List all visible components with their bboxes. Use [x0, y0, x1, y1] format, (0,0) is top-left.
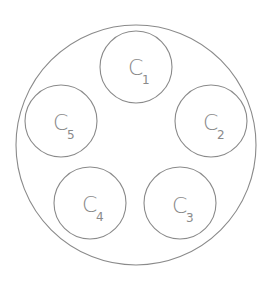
circle-c2: C 2 — [175, 85, 247, 157]
circle-c3-subscript: 3 — [186, 211, 194, 225]
circle-c3: C 3 — [144, 167, 216, 239]
circle-c5-subscript: 5 — [67, 128, 75, 142]
circle-c1: C 1 — [100, 31, 172, 103]
circle-c4: C 4 — [54, 167, 126, 239]
circle-c4-subscript: 4 — [96, 210, 104, 224]
circle-c1-subscript: 1 — [142, 73, 150, 87]
circle-c5: C 5 — [25, 85, 97, 157]
circle-c2-subscript: 2 — [217, 128, 225, 142]
circle-diagram: C 1 C 2 C 3 C 4 C 5 — [0, 0, 267, 283]
